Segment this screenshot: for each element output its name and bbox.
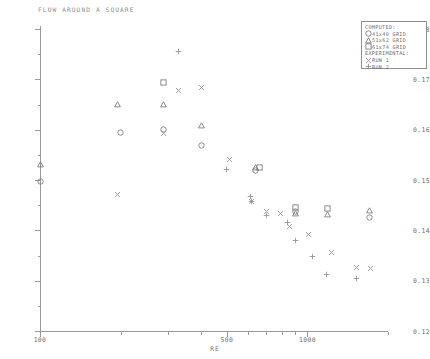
legend-item: RUN 1 <box>365 57 424 63</box>
data-point-circle <box>117 129 124 136</box>
data-point-circle <box>366 214 373 221</box>
data-point-square <box>160 79 167 86</box>
legend-item: 41x40 GRID <box>365 30 424 36</box>
data-point-circle <box>37 178 44 185</box>
data-point-cross <box>198 84 205 91</box>
square-icon <box>365 43 372 50</box>
chart-title: FLOW AROUND A SQUARE <box>38 6 135 13</box>
legend-item-label: 61x74 GRID <box>372 44 406 50</box>
x-minor-tick <box>168 332 169 335</box>
data-point-plus <box>323 271 330 278</box>
y-tick <box>35 230 41 231</box>
x-minor-tick <box>201 332 202 335</box>
data-point-circle <box>198 142 205 149</box>
data-point-square <box>256 164 263 171</box>
data-point-cross <box>353 264 360 271</box>
x-axis-line <box>40 331 388 332</box>
y-tick <box>35 29 41 30</box>
y-tick-label: 0.14 <box>396 227 430 235</box>
y-minor-tick <box>38 256 41 257</box>
data-point-plus <box>223 166 230 173</box>
data-point-plus <box>353 275 360 282</box>
y-tick <box>35 281 41 282</box>
legend-item: RUN 2 <box>365 64 424 70</box>
data-point-triangle <box>292 210 299 217</box>
y-minor-tick <box>38 105 41 106</box>
data-point-triangle <box>114 101 121 108</box>
legend-item-label: RUN 2 <box>372 64 389 70</box>
data-point-cross <box>328 249 335 256</box>
x-minor-tick <box>121 332 122 335</box>
legend-item-label: 51x62 GRID <box>372 37 406 43</box>
x-minor-tick <box>282 332 283 335</box>
plot-canvas: FLOW AROUND A SQUARE 0.120.130.140.150.1… <box>0 0 430 359</box>
x-axis-title: RE <box>0 345 430 352</box>
data-point-plus <box>309 253 316 260</box>
x-minor-tick <box>388 332 389 335</box>
y-minor-tick <box>38 54 41 55</box>
y-minor-tick <box>38 155 41 156</box>
y-minor-tick <box>38 205 41 206</box>
data-point-cross <box>305 231 312 238</box>
x-minor-tick <box>248 332 249 335</box>
x-tick-label: 500 <box>221 336 234 344</box>
y-tick-label: 0.17 <box>396 76 430 84</box>
legend-item-label: 41x40 GRID <box>372 31 406 37</box>
data-point-triangle <box>37 161 44 168</box>
x-tick-label: 1000 <box>299 336 316 344</box>
data-point-cross <box>175 87 182 94</box>
x-minor-tick <box>266 332 267 335</box>
x-tick-label: 100 <box>34 336 47 344</box>
legend-item-label: RUN 1 <box>372 57 389 63</box>
data-point-plus <box>175 48 182 55</box>
data-point-plus <box>292 237 299 244</box>
data-point-square <box>324 205 331 212</box>
y-tick-label: 0.16 <box>396 126 430 134</box>
y-tick-label: 0.12 <box>396 328 430 336</box>
legend-item: 51x62 GRID <box>365 37 424 43</box>
legend-box: COMPUTED: 41x40 GRID51x62 GRID61x74 GRID… <box>361 21 427 69</box>
y-tick <box>35 130 41 131</box>
data-point-triangle <box>366 207 373 214</box>
data-point-cross <box>160 130 167 137</box>
data-point-triangle <box>198 122 205 129</box>
data-point-plus <box>284 219 291 226</box>
data-point-plus <box>248 198 255 205</box>
legend-experimental-items: RUN 1RUN 2 <box>365 57 424 70</box>
data-point-square <box>292 204 299 211</box>
data-point-cross <box>226 156 233 163</box>
legend-item: 61x74 GRID <box>365 44 424 50</box>
plus-icon <box>365 63 372 70</box>
legend-computed-items: 41x40 GRID51x62 GRID61x74 GRID <box>365 30 424 50</box>
data-point-cross <box>277 210 284 217</box>
y-tick-label: 0.13 <box>396 277 430 285</box>
data-point-cross <box>367 265 374 272</box>
y-minor-tick <box>38 306 41 307</box>
data-point-cross <box>114 191 121 198</box>
y-tick-label: 0.15 <box>396 177 430 185</box>
y-tick <box>35 79 41 80</box>
x-minor-tick <box>295 332 296 335</box>
data-point-triangle <box>324 211 331 218</box>
data-point-plus <box>263 212 270 219</box>
data-point-triangle <box>160 101 167 108</box>
